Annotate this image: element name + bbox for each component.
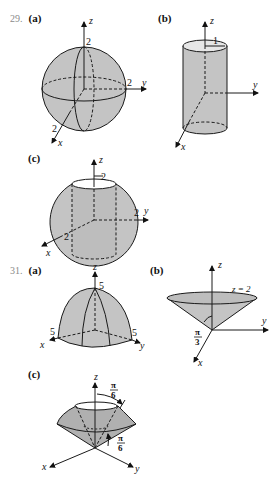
x-axis-label: x: [39, 339, 45, 350]
z-axis-label: z: [217, 259, 222, 270]
plane-label: z = 2: [231, 284, 251, 294]
tick-label: 2: [134, 207, 139, 218]
x-axis-label: x: [41, 461, 47, 472]
angle-numerator: π: [111, 380, 116, 390]
x-axis-label: x: [197, 357, 203, 368]
tick-label: 2: [86, 36, 91, 47]
figures: z 2 2 y 2 x z 1 y x z 2 2 y 2 x: [0, 0, 275, 480]
y-axis-label: y: [134, 463, 140, 474]
angle-numerator: π: [118, 433, 123, 443]
tick-label: 2: [52, 123, 57, 134]
z-axis-label: z: [92, 261, 97, 272]
tick-label: 5: [132, 327, 137, 338]
figure-31c-cones: [50, 383, 136, 467]
tick-label: 5: [99, 280, 104, 291]
z-axis-label: z: [209, 15, 214, 26]
radius-label: 1: [213, 35, 218, 46]
z-axis-label: z: [93, 371, 98, 382]
x-axis-label: x: [180, 141, 186, 152]
y-axis-label: y: [261, 315, 267, 326]
tick-label: 2: [127, 77, 132, 88]
z-axis-label: z: [88, 15, 93, 26]
x-axis-label: x: [45, 247, 51, 258]
tick-label: 5: [50, 326, 55, 337]
figure-31b-cone: [167, 266, 268, 362]
y-axis-label: y: [143, 205, 149, 216]
x-axis-label: x: [57, 137, 63, 148]
y-axis-label: y: [252, 79, 258, 90]
figure-31a-dome: [50, 272, 140, 347]
angle-numerator: π: [195, 327, 200, 337]
y-axis-label: y: [141, 77, 147, 88]
figure-29c-sphere-hole: [42, 160, 148, 266]
tick-label: 2: [64, 231, 69, 242]
hole-radius-label: 2: [101, 171, 106, 182]
angle-denominator: 6: [118, 443, 123, 453]
y-axis-label: y: [139, 340, 145, 351]
z-axis-label: z: [98, 154, 103, 165]
angle-denominator: 6: [111, 390, 116, 400]
angle-denominator: 3: [195, 337, 200, 347]
